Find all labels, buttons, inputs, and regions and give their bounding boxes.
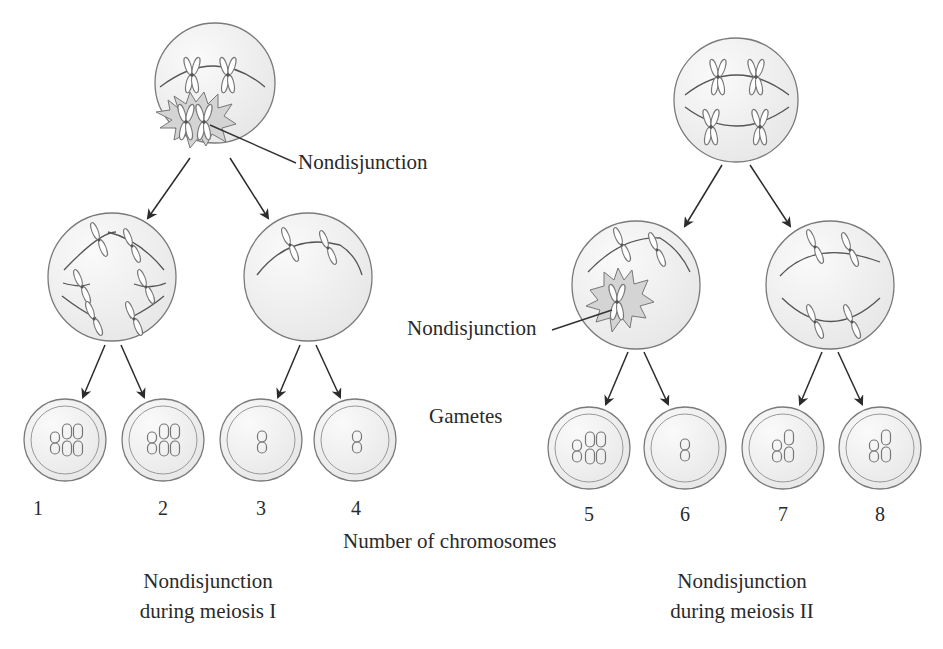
caption-meiosis-2-line2: during meiosis II	[632, 596, 852, 626]
gamete-7	[742, 407, 824, 489]
callout-line-1	[210, 125, 296, 163]
caption-meiosis-1-line2: during meiosis I	[108, 596, 308, 626]
number-of-chromosomes-label: Number of chromosomes	[343, 529, 556, 554]
parent-cell-meiosis-2	[674, 38, 798, 162]
gamete-1	[24, 399, 106, 481]
daughter-cell-1a	[48, 213, 176, 341]
gamete-count-6: 6	[670, 503, 700, 526]
gamete-count-5: 5	[574, 503, 604, 526]
gamete-8	[839, 407, 921, 489]
gametes-label: Gametes	[429, 404, 502, 429]
gamete-count-4: 4	[341, 497, 371, 520]
caption-meiosis-1-line1: Nondisjunction	[108, 566, 308, 596]
nondisjunction-label-meiosis-2: Nondisjunction	[407, 316, 537, 341]
arrow-to-left-daughter	[148, 158, 190, 218]
gamete-count-2: 2	[148, 497, 178, 520]
gamete-4	[314, 399, 396, 481]
gamete-count-8: 8	[865, 503, 895, 526]
daughter-cell-2b	[766, 221, 894, 349]
arrow-to-right-daughter	[230, 158, 268, 218]
daughter-cell-1b	[244, 213, 372, 341]
gamete-count-1: 1	[23, 497, 53, 520]
daughter-cell-2a	[552, 221, 700, 349]
parent-cell-meiosis-1	[155, 23, 296, 163]
caption-meiosis-2-line1: Nondisjunction	[632, 566, 852, 596]
gamete-2	[122, 399, 204, 481]
caption-meiosis-1: Nondisjunction during meiosis I	[108, 566, 308, 626]
gamete-count-3: 3	[246, 497, 276, 520]
gamete-count-7: 7	[768, 503, 798, 526]
gamete-6	[644, 407, 726, 489]
gamete-3	[220, 399, 302, 481]
gamete-5	[548, 407, 630, 489]
nondisjunction-label-meiosis-1: Nondisjunction	[298, 150, 428, 175]
caption-meiosis-2: Nondisjunction during meiosis II	[632, 566, 852, 626]
